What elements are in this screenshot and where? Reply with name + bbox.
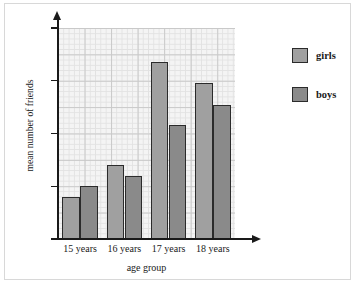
bar-girls-15-years xyxy=(62,197,80,239)
x-axis-label-15-years: 15 years xyxy=(58,243,102,254)
y-axis-tick xyxy=(51,186,58,187)
legend-item-girls: girls xyxy=(292,48,354,63)
boys-swatch-icon xyxy=(292,87,308,102)
bar-girls-17-years xyxy=(151,62,169,239)
y-axis-tick xyxy=(51,80,58,81)
bar-boys-18-years xyxy=(213,105,231,239)
x-axis-line xyxy=(57,238,253,240)
x-axis-title: age group xyxy=(58,262,235,273)
chart-legend: girls boys xyxy=(292,48,354,126)
y-axis-tick xyxy=(51,27,58,28)
bar-girls-16-years xyxy=(107,165,125,239)
y-axis-tick xyxy=(51,238,58,239)
legend-label-girls: girls xyxy=(316,50,336,61)
girls-swatch-icon xyxy=(292,48,308,63)
bar-boys-15-years xyxy=(80,186,98,239)
chart-page: 050100150200 15 years16 years17 years18 … xyxy=(0,0,355,284)
bar-boys-17-years xyxy=(169,125,187,239)
y-axis-title: mean number of friends xyxy=(24,56,35,196)
x-axis-label-16-years: 16 years xyxy=(102,243,146,254)
legend-label-boys: boys xyxy=(316,89,336,100)
legend-item-boys: boys xyxy=(292,87,354,102)
plot-area xyxy=(58,28,235,239)
bar-boys-16-years xyxy=(125,176,143,239)
y-axis-tick xyxy=(51,133,58,134)
bar-chart-figure: 050100150200 15 years16 years17 years18 … xyxy=(0,0,285,284)
x-axis-arrow-icon xyxy=(252,235,261,243)
y-axis-arrow-icon xyxy=(53,11,61,20)
x-axis-label-17-years: 17 years xyxy=(147,243,191,254)
bar-girls-18-years xyxy=(195,83,213,239)
bars-layer xyxy=(58,28,235,239)
y-axis-line xyxy=(57,18,59,240)
x-axis-label-18-years: 18 years xyxy=(191,243,235,254)
